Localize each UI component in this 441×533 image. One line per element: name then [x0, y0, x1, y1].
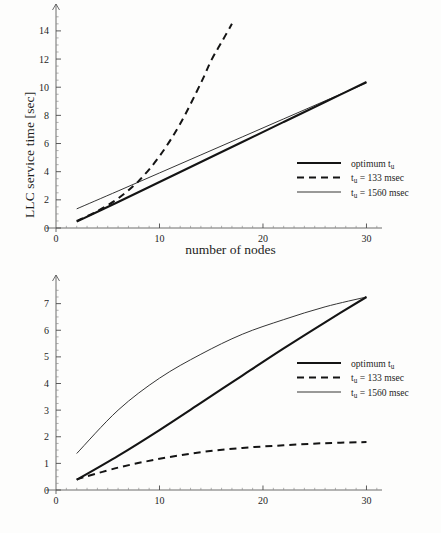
x-tick-label: 20 — [258, 495, 268, 506]
y-tick-label: 1 — [44, 458, 49, 469]
y-tick-label: 10 — [39, 82, 49, 93]
series-line — [77, 82, 367, 222]
x-tick-label: 10 — [154, 495, 164, 506]
x-tick-label: 30 — [361, 495, 371, 506]
y-tick-label: 6 — [44, 138, 49, 149]
y-tick-label: 3 — [44, 405, 49, 416]
y-tick-label: 6 — [44, 325, 49, 336]
llc-x-axis-title: number of nodes — [10, 242, 441, 258]
y-tick-label: 4 — [44, 166, 49, 177]
y-tick-label: 2 — [44, 194, 49, 205]
llc-plot-canvas: 010203002468101214optimum tutu = 133 mse… — [0, 0, 441, 268]
llc-y-axis-title: LLC service time [sec] — [22, 92, 38, 218]
y-tick-label: 5 — [44, 351, 49, 362]
mac-plot-canvas: 010203001234567optimum tutu = 133 msectu… — [0, 265, 441, 533]
legend-1560-label: tu = 1560 msec — [351, 387, 409, 400]
series-line — [77, 24, 232, 221]
series-line — [77, 442, 367, 479]
y-tick-label: 8 — [44, 110, 49, 121]
y-tick-label: 0 — [44, 223, 49, 234]
legend-optimum-label: optimum tu — [351, 158, 395, 171]
legend-1560-label: tu = 1560 msec — [351, 187, 409, 200]
legend-133-label: tu = 133 msec — [351, 372, 404, 385]
chart-llc-service-time: 010203002468101214optimum tutu = 133 mse… — [0, 0, 441, 268]
y-tick-label: 14 — [39, 25, 49, 36]
x-tick-label: 0 — [54, 495, 59, 506]
legend-optimum-label: optimum tu — [351, 358, 395, 371]
chart-mac-service-time: 010203001234567optimum tutu = 133 msectu… — [0, 265, 441, 533]
series-line — [77, 297, 367, 480]
y-tick-label: 12 — [39, 54, 49, 65]
y-tick-label: 4 — [44, 378, 49, 389]
y-tick-label: 0 — [44, 485, 49, 496]
series-line — [77, 297, 367, 454]
legend-133-label: tu = 133 msec — [351, 172, 404, 185]
y-tick-label: 2 — [44, 431, 49, 442]
figure-page: 010203002468101214optimum tutu = 133 mse… — [0, 0, 441, 533]
y-tick-label: 7 — [44, 298, 49, 309]
